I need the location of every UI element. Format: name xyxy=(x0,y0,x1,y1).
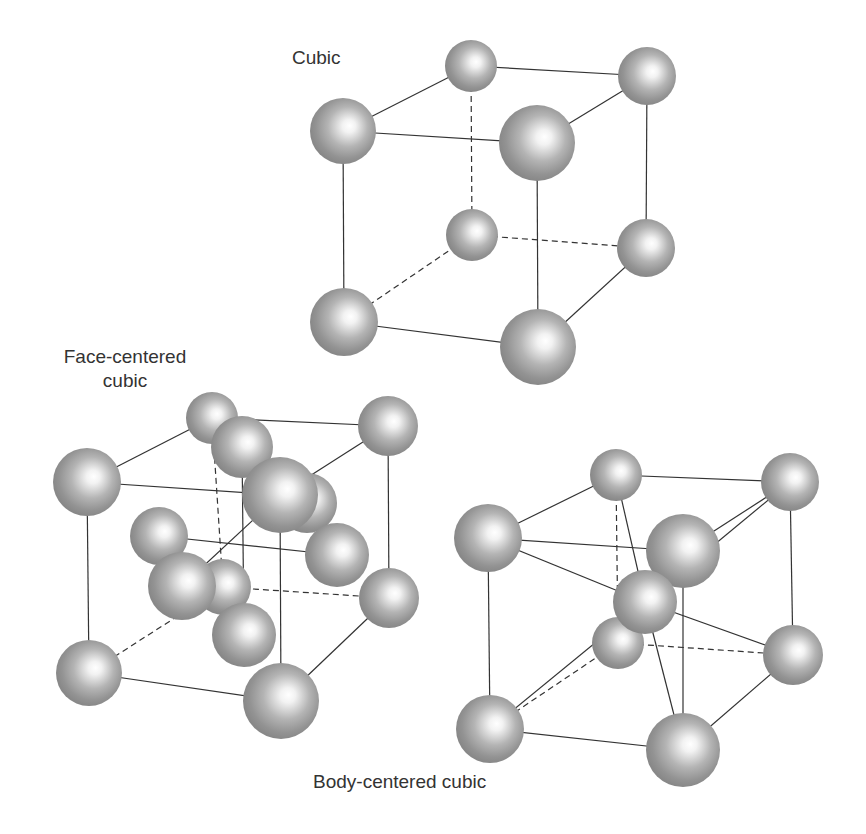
fcc-label-line2: cubic xyxy=(50,369,200,393)
atom-sphere xyxy=(242,457,318,533)
atom-sphere xyxy=(310,98,376,164)
atom-sphere xyxy=(243,663,319,739)
atom-sphere xyxy=(613,570,677,634)
atom-sphere xyxy=(359,568,419,628)
atom-sphere xyxy=(446,209,498,261)
atom-sphere xyxy=(445,40,497,92)
atom-sphere xyxy=(617,219,675,277)
atom-sphere xyxy=(456,695,524,763)
atom-sphere xyxy=(500,309,576,385)
crystal-lattice-diagram: Cubic Face-centered cubic Body-centered … xyxy=(0,0,866,834)
body-centered-cubic-structure xyxy=(454,449,823,787)
cubic-label: Cubic xyxy=(292,46,341,70)
fcc-label-line1: Face-centered xyxy=(50,345,200,369)
atom-sphere xyxy=(212,603,276,667)
atom-sphere xyxy=(590,449,642,501)
atom-sphere xyxy=(618,47,676,105)
atom-sphere xyxy=(454,504,522,572)
atom-sphere xyxy=(305,523,369,587)
atom-sphere xyxy=(761,453,819,511)
cubic-structure xyxy=(310,40,676,385)
atom-sphere xyxy=(646,713,720,787)
face-centered-cubic-structure xyxy=(53,392,419,739)
bond-lines xyxy=(343,66,647,347)
atom-sphere xyxy=(53,448,121,516)
atom-sphere xyxy=(148,552,216,620)
lattice-artwork xyxy=(0,0,866,834)
atom-sphere xyxy=(358,396,418,456)
body-centered-cubic-label: Body-centered cubic xyxy=(313,770,486,794)
atom-sphere xyxy=(763,625,823,685)
face-centered-cubic-label: Face-centered cubic xyxy=(50,345,200,393)
atom-sphere xyxy=(499,105,575,181)
atom-sphere xyxy=(310,288,378,356)
atom-sphere xyxy=(56,640,122,706)
